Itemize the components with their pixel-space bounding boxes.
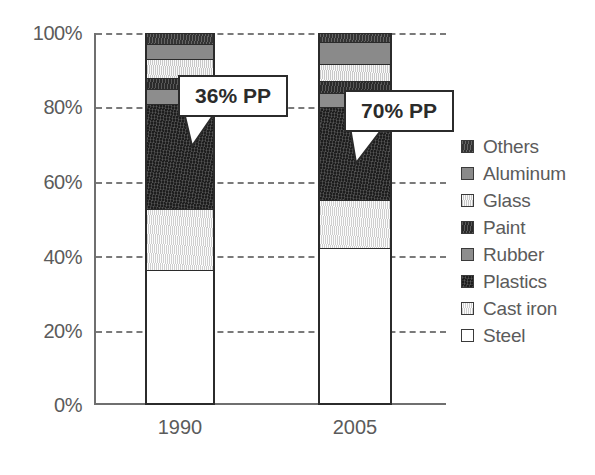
legend-item-others[interactable]: Others [461, 133, 566, 160]
legend-label-others: Others [483, 136, 539, 158]
legend-label-rubber: Rubber [483, 244, 544, 266]
legend-swatch-aluminum-icon [461, 167, 474, 180]
callout-1990-tail-icon [178, 112, 238, 152]
bar-2005-segment-glass[interactable] [318, 64, 392, 81]
y-axis-label-60: 60% [8, 171, 82, 194]
legend-label-plastics: Plastics [483, 271, 547, 293]
legend-item-glass[interactable]: Glass [461, 187, 566, 214]
legend: Others Aluminum Glass Paint Rubber Plast… [461, 133, 566, 349]
y-axis-label-20: 20% [8, 320, 82, 343]
legend-item-steel[interactable]: Steel [461, 322, 566, 349]
legend-label-glass: Glass [483, 190, 531, 212]
bar-1990-segment-steel[interactable] [145, 270, 215, 405]
legend-item-rubber[interactable]: Rubber [461, 241, 566, 268]
legend-label-paint: Paint [483, 217, 525, 239]
stacked-bar-chart: 100% 80% 60% 40% 20% 0% 36% PP [0, 0, 595, 475]
callout-2005-pp[interactable]: 70% PP [344, 90, 454, 132]
legend-swatch-rubber-icon [461, 248, 474, 261]
legend-item-paint[interactable]: Paint [461, 214, 566, 241]
legend-label-aluminum: Aluminum [483, 163, 566, 185]
bar-2005[interactable] [318, 33, 392, 405]
bar-2005-segment-aluminum[interactable] [318, 42, 392, 64]
legend-item-plastics[interactable]: Plastics [461, 268, 566, 295]
callout-2005-tail-icon [344, 127, 404, 169]
legend-item-aluminum[interactable]: Aluminum [461, 160, 566, 187]
legend-label-steel: Steel [483, 325, 525, 347]
y-axis-label-80: 80% [8, 96, 82, 119]
bar-1990-segment-aluminum[interactable] [145, 44, 215, 59]
legend-swatch-plastics-icon [461, 275, 474, 288]
legend-swatch-others-icon [461, 140, 474, 153]
bar-1990-segment-cast-iron[interactable] [145, 209, 215, 270]
bar-2005-segment-others[interactable] [318, 33, 392, 42]
y-axis-label-40: 40% [8, 246, 82, 269]
x-axis-label-1990: 1990 [120, 416, 240, 439]
legend-swatch-paint-icon [461, 221, 474, 234]
bar-1990-segment-others[interactable] [145, 33, 215, 44]
y-axis-label-0: 0% [8, 394, 82, 417]
bar-2005-segment-steel[interactable] [318, 248, 392, 405]
legend-swatch-steel-icon [461, 329, 474, 342]
legend-item-cast-iron[interactable]: Cast iron [461, 295, 566, 322]
legend-label-cast-iron: Cast iron [483, 298, 557, 320]
legend-swatch-glass-icon [461, 194, 474, 207]
bar-2005-segment-cast-iron[interactable] [318, 200, 392, 248]
callout-1990-pp[interactable]: 36% PP [178, 75, 288, 117]
legend-swatch-cast-iron-icon [461, 302, 474, 315]
y-axis-label-100: 100% [8, 22, 82, 45]
x-axis-label-2005: 2005 [295, 416, 415, 439]
